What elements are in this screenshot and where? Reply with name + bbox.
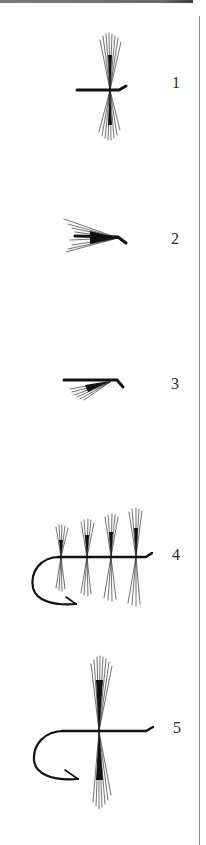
fly-diagrams-plate: 1 2 3	[0, 0, 206, 845]
figure-2-label: 2	[171, 230, 179, 247]
figure-4-hook-diagram	[32, 508, 152, 606]
figure-1-hackle-diagram	[77, 33, 126, 140]
figure-1-label: 1	[172, 74, 180, 91]
figure-4-label: 4	[172, 546, 180, 563]
figure-5-label: 5	[173, 719, 181, 736]
figure-3-label: 3	[171, 375, 179, 392]
figure-5-hook-diagram	[34, 656, 153, 809]
figure-2-hackle-diagram	[64, 219, 126, 252]
figure-3-hackle-diagram	[64, 380, 123, 400]
